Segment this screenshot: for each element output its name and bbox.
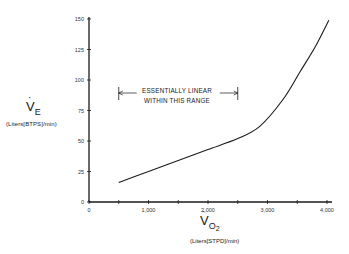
x-axis-units: (Liters[STPD]/min) [190, 238, 239, 244]
x-tick-label: 1,000 [142, 207, 156, 213]
x-axis-label: ·VO2 [200, 213, 220, 231]
y-tick-label: 0 [81, 199, 84, 205]
annotation-line-2: WITHIN THIS RANGE [122, 96, 232, 106]
y-tick-label: 100 [75, 77, 84, 83]
dot-accent: · [202, 206, 205, 217]
x-label-sub-o: O [209, 221, 216, 231]
x-tick-label: 4,000 [320, 207, 334, 213]
y-tick-label: 50 [78, 138, 84, 144]
linear-range-annotation: ESSENTIALLY LINEAR WITHIN THIS RANGE [122, 86, 232, 106]
y-tick-label: 25 [78, 169, 84, 175]
y-tick-label: 150 [75, 16, 84, 22]
y-label-subscript: E [35, 107, 41, 117]
chart-plot: 025507510012515001,0002,0003,0004,000 [0, 0, 349, 254]
x-label-sub-2: 2 [216, 225, 220, 232]
annotation-line-1: ESSENTIALLY LINEAR [122, 86, 232, 96]
x-tick-label: 3,000 [261, 207, 275, 213]
dot-accent: · [28, 92, 31, 103]
x-label-subscript: O2 [209, 221, 220, 231]
x-tick-label: 0 [87, 207, 90, 213]
y-axis-label: ·VE [26, 99, 41, 117]
y-tick-label: 125 [75, 47, 84, 53]
y-axis-units: (Liters[BTPS]/min) [6, 121, 57, 127]
y-tick-label: 75 [78, 108, 84, 114]
